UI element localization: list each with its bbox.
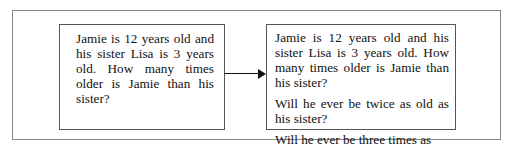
extended-problem-box: Jamie is 12 years old and his sister Lis… (266, 24, 456, 130)
original-problem-text: Jamie is 12 years old and his sister Lis… (76, 31, 214, 106)
arrow-right-icon (224, 69, 266, 79)
extended-problem-paragraph: Jamie is 12 years old and his sister Lis… (275, 30, 449, 90)
extended-problem-paragraph: Will he ever be twice as old as his sist… (275, 96, 449, 126)
arrow-shaft (224, 73, 260, 74)
arrow-head (258, 69, 266, 79)
original-problem-box: Jamie is 12 years old and his sister Lis… (59, 24, 225, 130)
extended-problem-paragraph: Will he ever be three times as old? (275, 132, 449, 148)
